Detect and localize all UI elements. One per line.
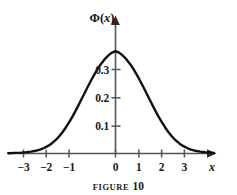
phi-close-paren: ) bbox=[110, 11, 114, 25]
y-tick-label-0-1: 0.1 bbox=[95, 120, 109, 132]
normal-distribution-plot: −3 −2 −1 0 1 2 3 0.3 0.2 0.1 Φ(x) x bbox=[0, 0, 237, 195]
figure-caption: FIGURE10 bbox=[0, 176, 237, 194]
x-axis-label: x bbox=[208, 160, 215, 174]
x-tick-label-3: 3 bbox=[182, 161, 188, 173]
x-tick-label-minus1: −1 bbox=[63, 161, 75, 173]
y-axis bbox=[111, 16, 120, 154]
figure-container: −3 −2 −1 0 1 2 3 0.3 0.2 0.1 Φ(x) x FIGU… bbox=[0, 0, 237, 195]
y-tick-labels: 0.3 0.2 0.1 bbox=[95, 64, 109, 133]
phi-argument: x bbox=[103, 11, 110, 25]
x-tick-label-minus3: −3 bbox=[18, 161, 30, 173]
figure-caption-word: FIGURE bbox=[93, 182, 130, 192]
x-tick-label-0: 0 bbox=[113, 161, 119, 173]
density-curve bbox=[8, 51, 214, 153]
y-tick-label-0-2: 0.2 bbox=[95, 92, 109, 104]
x-tick-label-1: 1 bbox=[136, 161, 142, 173]
figure-caption-number: 10 bbox=[132, 180, 144, 192]
x-tick-labels: −3 −2 −1 0 1 2 3 bbox=[18, 161, 188, 173]
x-tick-label-minus2: −2 bbox=[40, 161, 52, 173]
x-tick-label-2: 2 bbox=[159, 161, 165, 173]
phi-symbol: Φ bbox=[90, 11, 100, 25]
y-axis-label: Φ(x) bbox=[90, 11, 115, 25]
y-tick-label-0-3: 0.3 bbox=[95, 64, 109, 76]
